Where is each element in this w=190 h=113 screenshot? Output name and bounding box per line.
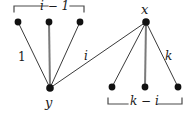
graph-figure: x y 1 i k i − 1 k − i xyxy=(0,0,190,113)
top-left-node-1 xyxy=(15,19,22,26)
edge-group xyxy=(18,22,178,88)
bottom-right-node-2 xyxy=(142,84,149,91)
edge-x-to-bottom-right-2 xyxy=(145,22,146,87)
edge-y-to-top-left-2 xyxy=(49,22,50,88)
edge-label-1: 1 xyxy=(18,51,26,63)
vertex-x xyxy=(142,18,150,26)
edge-x-to-bottom-right-3 xyxy=(146,22,178,87)
top-left-node-2 xyxy=(46,19,53,26)
vertex-x-label: x xyxy=(141,3,148,16)
edge-y-to-x xyxy=(50,22,146,88)
bracket-bottom-label: k − i xyxy=(130,95,159,107)
bottom-right-node-1 xyxy=(109,84,116,91)
edge-label-i: i xyxy=(84,50,88,62)
vertex-y xyxy=(46,84,54,92)
edge-label-k: k xyxy=(165,50,172,62)
graph-canvas xyxy=(0,0,190,113)
top-left-node-3 xyxy=(77,19,84,26)
edge-x-to-bottom-right-1 xyxy=(112,22,146,87)
bottom-right-node-3 xyxy=(175,84,182,91)
vertex-y-label: y xyxy=(45,96,52,109)
bracket-top-label: i − 1 xyxy=(40,0,69,12)
